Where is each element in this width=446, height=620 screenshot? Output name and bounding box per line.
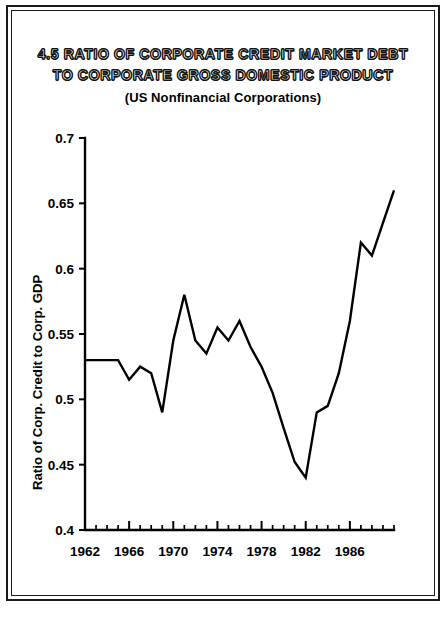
x-tick-label: 1982	[291, 544, 321, 559]
y-axis-title-label: Ratio of Corp. Credit to Corp. GDP	[30, 274, 45, 490]
figure-page: 4.5 RATIO OF CORPORATE CREDIT MARKET DEB…	[0, 0, 446, 620]
x-tick-label: 1962	[70, 544, 100, 559]
y-tick-label: 0.65	[48, 196, 75, 211]
x-tick-label: 1978	[247, 544, 278, 559]
x-tick-label: 1966	[114, 544, 145, 559]
chart-container: Ratio of Corp. Credit to Corp. GDP 0.40.…	[0, 0, 446, 620]
x-tick-label: 1986	[335, 544, 366, 559]
data-series-line	[85, 190, 394, 477]
y-tick-label: 0.4	[55, 523, 74, 538]
y-tick-label: 0.5	[55, 392, 74, 407]
line-chart: Ratio of Corp. Credit to Corp. GDP 0.40.…	[0, 0, 446, 620]
y-tick-label: 0.7	[55, 131, 74, 146]
y-tick-label: 0.6	[55, 262, 74, 277]
x-axis-tick-labels: 1962196619701974197819821986	[70, 544, 365, 559]
y-tick-label: 0.55	[48, 327, 75, 342]
x-tick-label: 1970	[158, 544, 188, 559]
y-axis-title: Ratio of Corp. Credit to Corp. GDP	[30, 274, 45, 490]
y-axis-tick-labels: 0.40.450.50.550.60.650.7	[48, 131, 75, 538]
x-tick-label: 1974	[202, 544, 233, 559]
y-tick-label: 0.45	[48, 458, 75, 473]
